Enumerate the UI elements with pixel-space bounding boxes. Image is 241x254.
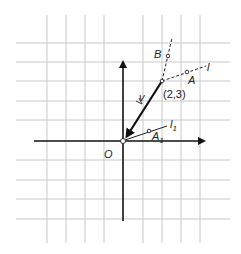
label-line-l: l (207, 61, 210, 73)
point-B (166, 54, 170, 58)
point-origin (121, 139, 126, 144)
label-point-2-3: (2,3) (163, 88, 186, 100)
point-A1 (147, 129, 151, 133)
vector-v (127, 81, 162, 136)
line-l (162, 66, 206, 81)
line-through-B (162, 38, 172, 81)
label-point-A: A (187, 74, 195, 86)
point-2-3 (160, 79, 164, 83)
label-point-B: B (154, 48, 161, 60)
label-origin: O (104, 148, 113, 160)
vector-projection-diagram: O (2,3) B A l v l1 A1 (0, 0, 241, 254)
